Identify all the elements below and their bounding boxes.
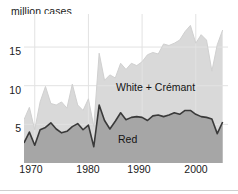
series-label-red: Red	[118, 133, 137, 145]
y-tick-5: 5	[3, 122, 21, 134]
bottom-divider	[0, 190, 238, 191]
x-tick-1980: 1980	[68, 163, 108, 175]
x-tick-1990: 1990	[119, 163, 159, 175]
series-label-white-cremant: White + Crémant	[116, 81, 195, 93]
chart-figure: million cases 15 10 5 1970 1980 1990 200…	[0, 0, 238, 194]
x-axis-ticks: 1970 1980 1990 2000	[0, 163, 238, 183]
y-tick-15: 15	[3, 45, 21, 57]
x-tick-2000: 2000	[176, 163, 216, 175]
y-tick-10: 10	[3, 84, 21, 96]
x-tick-1970: 1970	[11, 163, 51, 175]
